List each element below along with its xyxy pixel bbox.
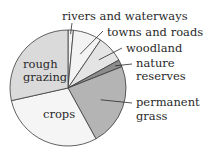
label-rough-grazing-line2: grazing bbox=[23, 70, 68, 84]
label-permanent-grass-line2: grass bbox=[136, 109, 168, 123]
pie-chart: rivers and waterways towns and roads woo… bbox=[0, 0, 207, 147]
label-crops: crops bbox=[43, 107, 75, 121]
pie-slices bbox=[10, 30, 126, 146]
label-nature-reserves-line2: reserves bbox=[136, 69, 186, 83]
label-nature-reserves-line1: nature bbox=[136, 56, 175, 70]
label-towns-and-roads: towns and roads bbox=[107, 25, 203, 39]
label-rough-grazing-line1: rough bbox=[23, 57, 58, 71]
label-rivers-and-waterways: rivers and waterways bbox=[62, 9, 188, 23]
label-woodland: woodland bbox=[126, 41, 183, 55]
label-permanent-grass-line1: permanent bbox=[136, 95, 200, 109]
